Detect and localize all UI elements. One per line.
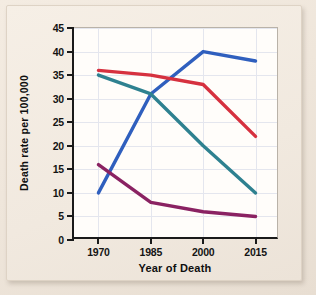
y-axis-tick-label: 25 <box>53 116 64 128</box>
y-axis-tick <box>67 192 74 194</box>
y-axis-tick <box>67 145 74 147</box>
series-lines <box>74 28 280 240</box>
y-axis-tick-label: 45 <box>53 22 64 34</box>
y-axis-tick <box>67 121 74 123</box>
chart-panel: Death rate per 100,000 05101520253035404… <box>6 5 302 281</box>
y-axis-tick <box>67 98 74 100</box>
y-axis-tick-label: 30 <box>53 93 64 105</box>
y-axis-tick <box>67 74 74 76</box>
line-teal-series <box>98 75 255 193</box>
y-axis-tick-label: 20 <box>53 140 64 152</box>
x-axis-tick-label: 1970 <box>87 246 110 258</box>
x-axis-tick-label: 1985 <box>140 246 163 258</box>
y-axis-tick-label: 5 <box>58 210 64 222</box>
y-axis-tick-label: 15 <box>53 163 64 175</box>
x-axis-tick-label: 2015 <box>244 246 267 258</box>
y-axis-tick-label: 40 <box>53 46 64 58</box>
y-axis-tick <box>67 215 74 217</box>
y-axis-title-text: Death rate per 100,000 <box>18 75 30 191</box>
y-axis-title: Death rate per 100,000 <box>17 27 31 239</box>
x-axis-tick <box>202 237 204 244</box>
line-red-series <box>98 70 255 136</box>
y-axis-tick <box>67 239 74 241</box>
y-axis-tick <box>67 27 74 29</box>
x-axis-title: Year of Death <box>72 262 278 274</box>
x-axis-tick-label: 2000 <box>192 246 215 258</box>
y-axis-tick <box>67 168 74 170</box>
y-axis-tick-label: 10 <box>53 187 64 199</box>
x-axis-tick <box>255 237 257 244</box>
x-axis-tick <box>150 237 152 244</box>
y-axis-tick-label: 0 <box>58 234 64 246</box>
plot-area: 0510152025303540451970198520002015 <box>72 27 278 239</box>
x-axis-tick <box>97 237 99 244</box>
y-axis-tick <box>67 51 74 53</box>
chart-page: Death rate per 100,000 05101520253035404… <box>0 0 316 295</box>
y-axis-tick-label: 35 <box>53 69 64 81</box>
